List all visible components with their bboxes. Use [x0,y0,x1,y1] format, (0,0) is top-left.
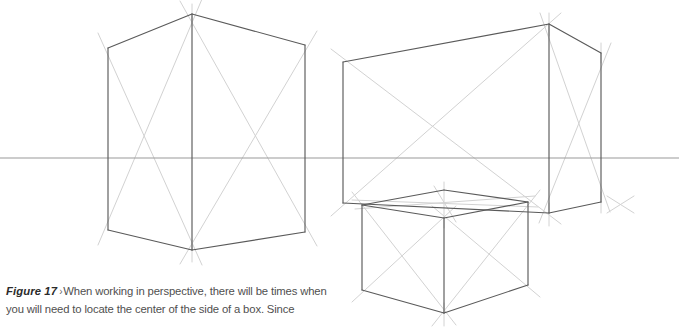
right-box-edge-top-right [549,24,601,53]
construction-line [539,43,611,223]
construction-line [540,13,610,212]
figure-page: Figure 17›When working in perspective, t… [0,0,679,328]
construction-line [331,49,561,224]
bottom-box-edge-bottom-right [444,285,528,313]
right-box-edge-bottom-right [549,202,601,213]
right-box-edge-top-left [343,24,549,62]
left-cube-edge-bottom-left [108,230,192,250]
construction-line [180,1,317,246]
perspective-drawing [0,0,679,328]
construction-line [355,196,535,209]
construction-line [432,206,540,297]
construction-line [98,0,202,245]
construction-line [180,31,317,264]
left-cube-edge-bottom-right [192,232,305,250]
construction-line [352,206,456,302]
construction-line [98,33,202,265]
left-cube-edge-top-right [192,14,305,45]
bottom-box-edge-top-back-right [444,190,528,202]
figure-label: Figure 17 [6,285,57,297]
box-edges-group [108,14,601,313]
right-wide-box [343,24,601,213]
construction-lines-group [98,0,634,326]
figure-caption: Figure 17›When working in perspective, t… [6,283,346,318]
left-cube-edge-top-left [108,14,192,48]
